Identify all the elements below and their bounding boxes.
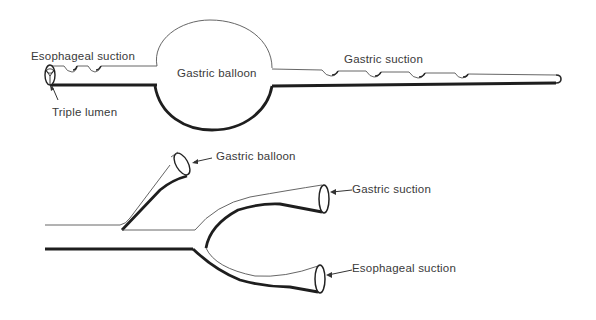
esophageal-suction-opening: [315, 265, 325, 293]
tube-tip: [556, 75, 561, 83]
gastric-suction-opening: [319, 185, 329, 213]
trunk-top-edge: [45, 165, 170, 225]
tube-diagram: Esophageal suction Gastric balloon Gastr…: [0, 0, 596, 320]
label-triple-lumen: Triple lumen: [52, 106, 117, 118]
gastric-hole-4: [463, 74, 468, 77]
label-gastric-balloon-bottom: Gastric balloon: [216, 150, 296, 162]
gastric-hole-3: [419, 73, 425, 77]
gastric-tube-top-edge: [272, 69, 556, 78]
triple-lumen-end: [45, 65, 55, 85]
label-gastric-suction-bottom: Gastric suction: [352, 183, 431, 195]
gastric-balloon-lower: [155, 86, 272, 130]
gastric-branch-lower-edge: [206, 204, 322, 248]
esophageal-branch-lower-edge: [193, 249, 318, 292]
gastric-balloon-upper: [156, 20, 272, 68]
gastric-hole-2: [375, 72, 381, 76]
bottom-connector-view: Gastric balloon Gastric suction Esophage…: [45, 150, 456, 293]
label-gastric-balloon-top: Gastric balloon: [177, 67, 257, 79]
balloon-branch-lower-edge: [122, 176, 187, 230]
esophageal-hole-2: [96, 66, 101, 70]
arrowhead-icon: [192, 159, 198, 164]
esophageal-tube-top-edge: [52, 66, 157, 72]
label-gastric-suction-top: Gastric suction: [344, 53, 423, 65]
top-tube-view: Esophageal suction Gastric balloon Gastr…: [31, 20, 561, 130]
arrowhead-icon: [330, 189, 336, 195]
label-esophageal-suction-bottom: Esophageal suction: [352, 262, 456, 274]
label-esophageal-suction-top: Esophageal suction: [31, 50, 135, 62]
arrowhead-icon: [326, 272, 332, 278]
gastric-tube-bottom-edge: [272, 83, 556, 86]
gastric-hole-1: [332, 71, 338, 75]
